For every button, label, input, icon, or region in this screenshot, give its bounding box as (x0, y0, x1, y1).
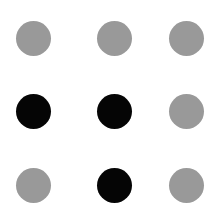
dot-r2-c1 (16, 94, 51, 129)
dot-r3-c1 (16, 168, 51, 203)
dot-r1-c2 (97, 21, 132, 56)
dot-r2-c2 (97, 94, 132, 129)
dot-r3-c3 (169, 168, 204, 203)
dot-r1-c3 (169, 21, 204, 56)
dot-grid (0, 0, 218, 218)
dot-r1-c1 (16, 21, 51, 56)
dot-r2-c3 (169, 94, 204, 129)
dot-r3-c2 (97, 168, 132, 203)
